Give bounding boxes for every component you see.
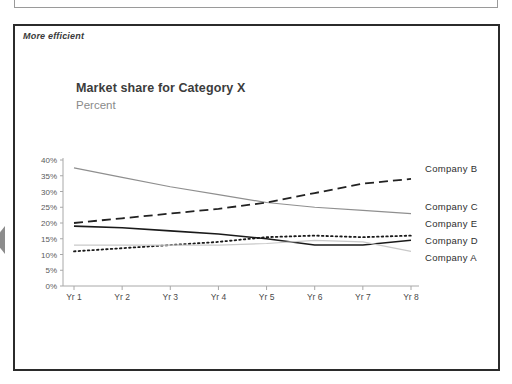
y-tick-label: 0% — [45, 282, 57, 291]
series-line-company-b — [74, 168, 411, 214]
x-tick-label: Yr 6 — [307, 292, 323, 302]
x-tick-label: Yr 7 — [355, 292, 371, 302]
chart-series — [74, 168, 411, 251]
x-tick-label: Yr 8 — [403, 292, 419, 302]
screenshot-root: More efficient Market share for Category… — [0, 0, 512, 384]
legend-item-company-b: Company B — [425, 163, 477, 174]
y-tick-label: 20% — [41, 219, 57, 228]
y-tick-label: 5% — [45, 266, 57, 275]
y-tick-label: 30% — [41, 188, 57, 197]
x-tick-label: Yr 2 — [114, 292, 130, 302]
x-tick-label: Yr 3 — [162, 292, 178, 302]
chart-legend: Company BCompany CCompany ECompany DComp… — [425, 0, 509, 384]
x-tick-label: Yr 5 — [259, 292, 275, 302]
series-line-company-c — [74, 179, 411, 223]
x-tick-label: Yr 1 — [66, 292, 82, 302]
legend-item-company-e: Company E — [425, 218, 477, 229]
legend-item-company-c: Company C — [425, 201, 478, 212]
legend-item-company-a: Company A — [425, 252, 477, 263]
y-tick-label: 40% — [41, 156, 57, 165]
x-tick-label: Yr 4 — [211, 292, 227, 302]
chart-axes: 40%35%30%25%20%15%10%5%0%Yr 1Yr 2Yr 3Yr … — [41, 156, 419, 302]
series-line-company-e — [74, 236, 411, 252]
legend-item-company-d: Company D — [425, 235, 478, 246]
y-tick-label: 35% — [41, 172, 57, 181]
y-tick-label: 15% — [41, 235, 57, 244]
y-tick-label: 25% — [41, 203, 57, 212]
y-tick-label: 10% — [41, 251, 57, 260]
